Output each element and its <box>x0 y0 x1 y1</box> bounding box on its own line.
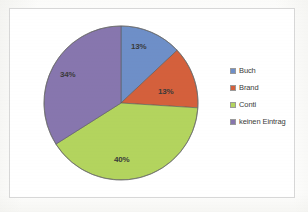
legend-label-brand: Brand <box>239 83 259 92</box>
chart-legend: Buch Brand Conti keinen Eintrag <box>230 62 296 130</box>
pie-label-keinen-eintrag: 34% <box>60 70 75 79</box>
chart-page: 13% 13% 40% 34% Buch Brand Conti <box>0 0 308 212</box>
legend-swatch-icon-buch <box>230 68 236 74</box>
legend-item-keinen-eintrag[interactable]: keinen Eintrag <box>230 113 296 130</box>
pie-label-buch: 13% <box>131 42 146 51</box>
chart-frame: 13% 13% 40% 34% Buch Brand Conti <box>9 8 295 198</box>
legend-item-conti[interactable]: Conti <box>230 96 296 113</box>
plot-area: 13% 13% 40% 34% Buch Brand Conti <box>10 9 296 199</box>
legend-swatch-icon-brand <box>230 85 236 91</box>
legend-swatch-icon-conti <box>230 102 236 108</box>
legend-label-keinen-eintrag: keinen Eintrag <box>239 117 286 126</box>
pie-label-brand: 13% <box>158 87 173 96</box>
legend-item-buch[interactable]: Buch <box>230 62 296 79</box>
legend-item-brand[interactable]: Brand <box>230 79 296 96</box>
legend-label-conti: Conti <box>239 100 256 109</box>
pie-label-conti: 40% <box>114 155 129 164</box>
legend-label-buch: Buch <box>239 66 256 75</box>
legend-swatch-icon-keinen-eintrag <box>230 119 236 125</box>
